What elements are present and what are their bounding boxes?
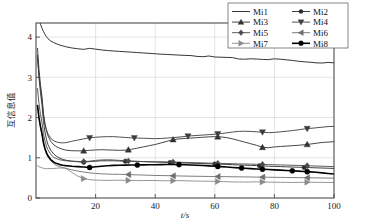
y-tick-label: 4 [28,32,33,42]
series-marker [81,176,87,182]
x-tick-label: 40 [151,201,161,211]
chart-legend[interactable]: Mi1Mi2Mi3Mi4Mi5Mi6Mi7Mi8 [228,3,348,49]
series-line-mi5 [37,89,334,167]
series-marker [305,169,310,174]
legend-label: Mi1 [253,7,268,17]
series-marker [126,177,132,183]
series-line-mi4 [37,58,334,143]
series-marker [176,162,181,167]
y-tick-label: 0 [28,193,33,203]
series-marker [125,171,131,177]
legend-label: Mi4 [313,17,329,27]
series-marker [135,162,140,167]
chart-figure: 2040608010001234 t/s 互信息值 Mi1Mi2Mi3Mi4Mi… [0,0,371,224]
series-marker [290,168,295,173]
series-marker [299,41,304,46]
legend-label: Mi5 [253,28,269,38]
series-marker [215,164,220,169]
legend-box [228,3,348,48]
x-tick-label: 60 [210,201,220,211]
legend-label: Mi7 [253,39,269,49]
series-marker [299,9,303,13]
series-marker [239,165,244,170]
tick-labels: 2040608010001234 [28,32,342,211]
y-tick-label: 1 [28,153,33,163]
legend-label: Mi3 [253,17,269,27]
y-tick-label: 2 [28,113,33,123]
x-tick-label: 80 [270,201,280,211]
x-tick-label: 100 [327,201,341,211]
legend-label: Mi6 [313,28,329,38]
series-marker [87,165,92,170]
x-axis-title: t/s [181,210,190,220]
chart-svg: 2040608010001234 t/s 互信息值 Mi1Mi2Mi3Mi4Mi… [0,0,371,224]
x-tick-label: 20 [91,201,101,211]
series-marker [260,167,265,172]
y-axis-title: 互信息值 [6,92,16,128]
legend-label: Mi8 [313,39,329,49]
y-tick-label: 3 [28,73,33,83]
legend-label: Mi2 [313,7,328,17]
